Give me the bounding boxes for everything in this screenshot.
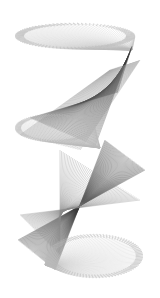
helix-string-art: [0, 0, 160, 298]
